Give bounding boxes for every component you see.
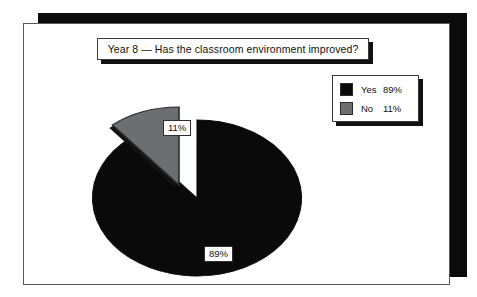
- legend-value-no: 11%: [383, 103, 401, 114]
- chart-title-text: Year 8 — Has the classroom environment i…: [108, 43, 359, 55]
- legend-item-no[interactable]: No 11%: [340, 100, 418, 117]
- legend-value-yes: 89%: [383, 84, 402, 95]
- legend-label-no: No: [361, 103, 383, 114]
- chart-title-plate: Year 8 — Has the classroom environment i…: [97, 38, 369, 60]
- legend-item-yes[interactable]: Yes 89%: [340, 81, 418, 98]
- legend-swatch-yes-icon: [340, 83, 353, 96]
- chart-screenshot: 11% 89% Year 8 — Has the classroom envir…: [0, 0, 477, 297]
- pie-label-no: 11%: [163, 120, 191, 136]
- legend-label-yes: Yes: [361, 84, 383, 95]
- chart-legend: Yes 89% No 11%: [332, 75, 419, 122]
- pie-label-yes: 89%: [204, 246, 233, 262]
- legend-swatch-no-icon: [340, 102, 353, 115]
- pie-slice-yes[interactable]: [92, 120, 301, 276]
